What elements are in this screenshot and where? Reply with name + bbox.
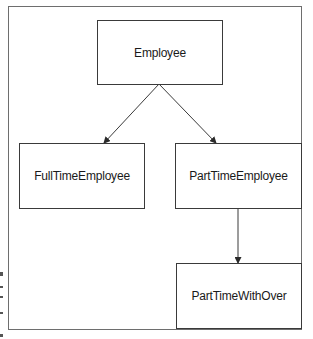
node-employee-label: Employee [134,46,186,60]
node-employee: Employee [97,20,223,85]
node-part-time-with-over-label: PartTimeWithOver [191,289,286,303]
node-full-time-employee: FullTimeEmployee [19,143,145,209]
node-part-time-employee: PartTimeEmployee [175,143,302,209]
node-part-time-with-over: PartTimeWithOver [176,263,302,329]
cropped-caption-marks [0,272,4,339]
node-part-time-employee-label: PartTimeEmployee [189,169,287,183]
node-full-time-employee-label: FullTimeEmployee [34,169,130,183]
